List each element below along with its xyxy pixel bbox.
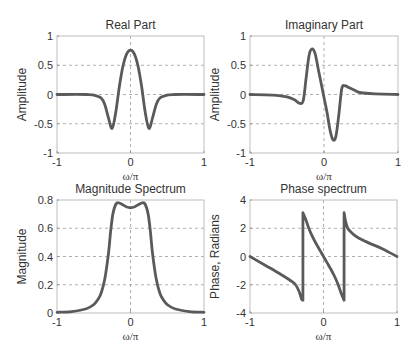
y-tick-label: -0.5 bbox=[227, 118, 246, 130]
x-tick-label: 1 bbox=[201, 316, 207, 328]
y-tick-label: 0.5 bbox=[38, 59, 53, 71]
x-tick-label: -1 bbox=[52, 156, 62, 168]
y-tick-label: -1 bbox=[43, 147, 53, 159]
subplot-4: -101-4-2024Phase spectrumω/πPhase, Radia… bbox=[208, 182, 400, 342]
y-tick-label: 0 bbox=[240, 89, 246, 101]
y-axis-label: Phase, Radians bbox=[208, 214, 222, 299]
y-tick-label: 0 bbox=[47, 89, 53, 101]
y-tick-label: 0.6 bbox=[38, 222, 53, 234]
y-tick-label: 0.4 bbox=[38, 251, 53, 263]
x-tick-label: -1 bbox=[52, 316, 62, 328]
subplot-title: Real Part bbox=[105, 18, 156, 32]
subplot-title: Phase spectrum bbox=[280, 182, 367, 196]
x-axis-label: ω/π bbox=[316, 170, 332, 182]
x-tick-label: 1 bbox=[201, 156, 207, 168]
subplot-2: -101-1-0.500.51Imaginary Partω/πAmplitud… bbox=[208, 18, 401, 182]
x-axis-label: ω/π bbox=[316, 330, 332, 342]
figure: -101-1-0.500.51Real Partω/πAmplitude-101… bbox=[0, 0, 419, 359]
x-axis-label: ω/π bbox=[123, 330, 139, 342]
x-axis-label: ω/π bbox=[123, 170, 139, 182]
x-tick-label: 1 bbox=[395, 156, 401, 168]
y-tick-label: 4 bbox=[240, 194, 246, 206]
x-tick-label: 0 bbox=[127, 156, 133, 168]
y-tick-label: 2 bbox=[240, 222, 246, 234]
y-tick-label: 1 bbox=[240, 30, 246, 42]
x-tick-label: -1 bbox=[245, 316, 255, 328]
y-tick-label: 0.2 bbox=[38, 279, 53, 291]
y-tick-label: -2 bbox=[236, 279, 246, 291]
x-tick-label: 0 bbox=[321, 156, 327, 168]
y-tick-label: 1 bbox=[47, 30, 53, 42]
y-axis-label: Amplitude bbox=[15, 68, 29, 122]
y-axis-label: Magnitude bbox=[15, 228, 29, 284]
x-tick-label: 0 bbox=[127, 316, 133, 328]
y-tick-label: -0.5 bbox=[34, 118, 53, 130]
x-tick-label: -1 bbox=[245, 156, 255, 168]
subplot-1: -101-1-0.500.51Real Partω/πAmplitude bbox=[15, 18, 207, 182]
x-tick-label: 1 bbox=[394, 316, 400, 328]
x-tick-label: 0 bbox=[320, 316, 326, 328]
y-tick-label: 0.5 bbox=[231, 59, 246, 71]
y-tick-label: 0 bbox=[47, 307, 53, 319]
y-tick-label: -4 bbox=[236, 307, 246, 319]
y-tick-label: 0 bbox=[240, 251, 246, 263]
subplot-title: Imaginary Part bbox=[285, 18, 364, 32]
subplot-3: -10100.20.40.60.8Magnitude Spectrumω/πMa… bbox=[15, 182, 207, 342]
y-tick-label: -1 bbox=[236, 147, 246, 159]
subplot-title: Magnitude Spectrum bbox=[75, 182, 186, 196]
y-tick-label: 0.8 bbox=[38, 194, 53, 206]
y-axis-label: Amplitude bbox=[208, 68, 222, 122]
